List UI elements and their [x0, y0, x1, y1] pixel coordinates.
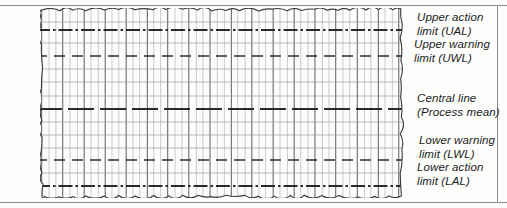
- label-lal-line1: Lower action: [417, 161, 483, 175]
- label-lal-line2: limit (LAL): [417, 175, 483, 189]
- label-lower-action-limit: Lower action limit (LAL): [417, 161, 483, 188]
- graph-paper-fill: [40, 8, 404, 198]
- chart-plot-area: [40, 8, 404, 198]
- label-lwl-line1: Lower warning: [419, 134, 495, 148]
- figure-bottom-rule: [0, 202, 507, 203]
- label-uwl-line2: limit (UWL): [414, 52, 490, 66]
- label-ual-line2: limit (UAL): [417, 25, 483, 39]
- label-ual-line1: Upper action: [417, 11, 483, 25]
- label-central-line: Central line (Process mean): [417, 92, 500, 119]
- label-central-line2: (Process mean): [417, 106, 500, 120]
- label-lower-warning-limit: Lower warning limit (LWL): [419, 134, 495, 161]
- label-upper-warning-limit: Upper warning limit (UWL): [414, 38, 490, 65]
- label-lwl-line2: limit (LWL): [419, 148, 495, 162]
- figure-top-rule: [0, 5, 507, 6]
- label-central-line1: Central line: [417, 92, 500, 106]
- label-uwl-line1: Upper warning: [414, 38, 490, 52]
- chart-grid-svg: [40, 8, 404, 198]
- label-upper-action-limit: Upper action limit (UAL): [417, 11, 483, 38]
- control-chart-figure: Upper action limit (UAL) Upper warning l…: [0, 0, 507, 208]
